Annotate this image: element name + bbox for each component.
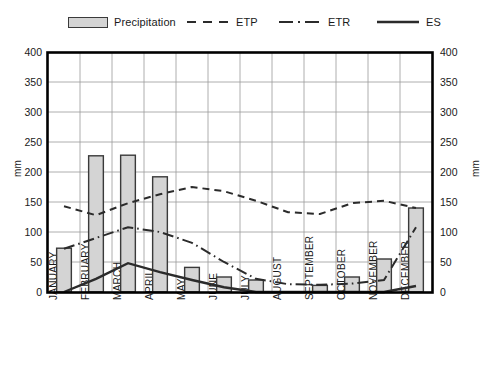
bar-december xyxy=(409,208,424,292)
bar-march xyxy=(121,155,136,292)
bar-june xyxy=(217,277,232,292)
bar-january xyxy=(57,248,72,292)
bar-february xyxy=(89,156,104,292)
plot-area xyxy=(0,0,489,371)
bar-november xyxy=(377,259,392,292)
precipitation-water-balance-chart: Precipitation ETP ETR ES mm mm 400350300… xyxy=(0,0,489,371)
grid-lines xyxy=(48,52,432,292)
